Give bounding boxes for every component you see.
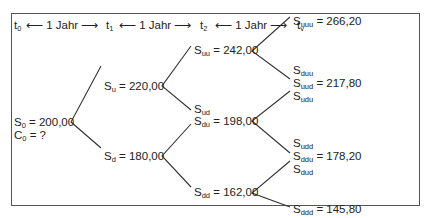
- node-sdu: Sdu = 198,00: [194, 115, 258, 128]
- timeline-interval-1: ⟵ 1 Jahr ⟶: [26, 19, 98, 32]
- node-suu: Suu = 242,00: [194, 44, 258, 57]
- node-sdud-alias: Sdud: [293, 163, 313, 176]
- timeline-t2: t2: [200, 19, 207, 32]
- timeline-interval-2: ⟵ 1 Jahr ⟶: [119, 19, 191, 32]
- node-suud: Suud = 217,80: [293, 77, 361, 90]
- node-s0: S0 = 200,00: [14, 116, 74, 129]
- node-sudu-alias: Sudu: [293, 90, 313, 103]
- branch-sdd: [252, 161, 290, 207]
- node-c0: C0 = ?: [14, 129, 46, 142]
- branch-sd: [162, 124, 191, 187]
- node-sdd: Sdd = 162,00: [194, 186, 258, 199]
- node-su: Su = 220,00: [104, 80, 164, 93]
- node-sudd-alias: Sudd: [293, 137, 313, 150]
- node-suuu: Suuu = 266,20: [293, 15, 361, 28]
- timeline-t0: t0: [14, 19, 21, 32]
- branch-su: [162, 46, 191, 110]
- timeline-t1: t1: [106, 19, 113, 32]
- node-sddd: Sddd = 145,80: [293, 203, 361, 216]
- node-sd: Sd = 180,00: [104, 150, 164, 163]
- branch-root: [71, 66, 101, 148]
- timeline-interval-3: ⟵ 1 Jahr ⟶: [215, 19, 287, 32]
- node-sduu-alias: Sduu: [293, 64, 313, 77]
- node-sddu: Sddu = 178,20: [293, 150, 361, 163]
